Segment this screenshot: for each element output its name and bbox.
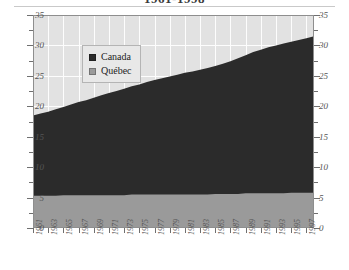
y-axis-minor-tickmark: [29, 61, 33, 62]
x-axis-tickmark: [306, 228, 307, 233]
y-axis-minor-tickmark: [29, 182, 33, 183]
y-axis-tick-label: 30: [319, 41, 343, 50]
y-axis-tickmark: [27, 167, 33, 168]
y-axis-minor-tickmark: [314, 30, 318, 31]
y-axis-tickmark: [314, 76, 320, 77]
x-axis-tickmark: [124, 228, 125, 233]
y-axis-tickmark: [27, 15, 33, 16]
x-axis-tickmark: [94, 228, 95, 233]
x-axis-tick-label: 1961: [36, 219, 44, 235]
legend-label-canada: Canada: [101, 52, 131, 62]
x-axis-tickmark: [185, 228, 186, 233]
x-axis-tick-label: 1979: [173, 219, 181, 235]
x-axis-tickmark: [276, 228, 277, 233]
legend-swatch-canada: [89, 54, 96, 61]
y-axis-minor-tickmark: [314, 182, 318, 183]
x-axis-tickmark: [291, 228, 292, 233]
y-axis-tick-label: 0: [319, 224, 343, 233]
x-axis-tickmark: [155, 228, 156, 233]
chart-page: 1961-1998 05101520253035 05101520253035 …: [0, 0, 349, 270]
y-axis-tickmark: [314, 45, 320, 46]
legend-swatch-quebec: [89, 68, 96, 75]
legend-item-quebec: Québec: [89, 65, 132, 77]
y-axis-tick-label: 20: [319, 102, 343, 111]
x-axis-tick-label: 1967: [82, 219, 90, 235]
y-axis-tickmark: [314, 137, 320, 138]
x-axis-tickmark: [139, 228, 140, 233]
y-axis-tickmark: [314, 15, 320, 16]
title-divider: [14, 6, 335, 7]
x-axis-tickmark: [215, 228, 216, 233]
y-axis-tick-label: 15: [319, 133, 343, 142]
plot-area: [33, 15, 314, 228]
x-axis-tick-label: 1981: [188, 219, 196, 235]
y-axis-minor-tickmark: [314, 91, 318, 92]
x-axis-tick-label: 1973: [127, 219, 135, 235]
y-axis-minor-tickmark: [314, 152, 318, 153]
x-axis-tickmark: [230, 228, 231, 233]
y-axis-tick-label: 5: [319, 194, 343, 203]
x-axis-tick-label: 1987: [233, 219, 241, 235]
x-axis-tickmark: [200, 228, 201, 233]
x-axis-tick-label: 1971: [112, 219, 120, 235]
legend-item-canada: Canada: [89, 51, 132, 63]
x-axis-tick-label: 1965: [66, 219, 74, 235]
legend-label-quebec: Québec: [101, 66, 132, 76]
y-axis-minor-tickmark: [29, 30, 33, 31]
x-axis-tick-label: 1969: [97, 219, 105, 235]
y-axis-tickmark: [27, 76, 33, 77]
y-axis-minor-tickmark: [314, 213, 318, 214]
x-axis-tick-label: 1991: [264, 219, 272, 235]
stacked-area-paths: [33, 15, 314, 228]
x-axis-tick-label: 1997: [309, 219, 317, 235]
series-layer: [33, 15, 314, 228]
x-axis-tickmark: [79, 228, 80, 233]
y-axis-minor-tickmark: [29, 213, 33, 214]
y-axis-tickmark: [27, 137, 33, 138]
y-axis-tick-label: 25: [319, 72, 343, 81]
x-axis-tickmark: [170, 228, 171, 233]
y-axis-tickmark: [27, 106, 33, 107]
x-axis-tick-label: 1989: [249, 219, 257, 235]
x-axis-tickmark: [33, 228, 34, 233]
chart-legend: Canada Québec: [82, 45, 141, 83]
x-axis-tick-label: 1993: [279, 219, 287, 235]
y-axis-minor-tickmark: [29, 91, 33, 92]
x-axis-tick-label: 1983: [203, 219, 211, 235]
x-axis-tick-label: 1985: [218, 219, 226, 235]
x-axis-tickmark: [48, 228, 49, 233]
x-axis-tickmark: [246, 228, 247, 233]
y-axis-tickmark: [27, 198, 33, 199]
y-axis-tickmark: [27, 45, 33, 46]
y-axis-tickmark: [314, 198, 320, 199]
y-axis-tickmark: [314, 167, 320, 168]
y-axis-minor-tickmark: [29, 122, 33, 123]
y-axis-tick-label: 35: [319, 11, 343, 20]
y-axis-minor-tickmark: [314, 61, 318, 62]
x-axis-tick-label: 1995: [294, 219, 302, 235]
y-axis-minor-tickmark: [314, 122, 318, 123]
x-axis-tickmark: [261, 228, 262, 233]
y-axis-minor-tickmark: [29, 152, 33, 153]
x-axis-tick-label: 1963: [51, 219, 59, 235]
x-axis-tickmark: [63, 228, 64, 233]
x-axis-tickmark: [109, 228, 110, 233]
x-axis-tick-label: 1975: [142, 219, 150, 235]
x-axis-tick-label: 1977: [158, 219, 166, 235]
y-axis-tick-label: 10: [319, 163, 343, 172]
y-axis-tickmark: [314, 106, 320, 107]
